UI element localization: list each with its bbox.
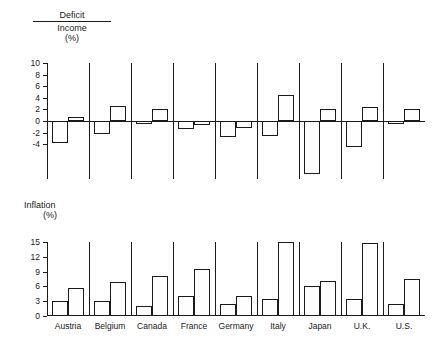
inflation-y-tick (43, 301, 47, 302)
deficit-income-chart: 1086420-2-4 (47, 63, 425, 179)
category-separator (89, 63, 90, 179)
inflation-title-unit: (%) (24, 210, 76, 220)
bar (304, 286, 320, 316)
bar (68, 288, 84, 316)
deficit-y-tick-label: 0 (18, 117, 40, 126)
bar (278, 95, 294, 121)
category-separator (173, 63, 174, 179)
bar (94, 301, 110, 316)
inflation-y-tick (43, 257, 47, 258)
category-separator (89, 242, 90, 316)
deficit-y-tick-label: 8 (18, 71, 40, 80)
inflation-chart-title: Inflation (%) (24, 200, 94, 220)
inflation-y-tick (43, 272, 47, 273)
category-separator (215, 63, 216, 179)
bar (94, 121, 110, 134)
inflation-y-tick (43, 286, 47, 287)
bar (278, 242, 294, 316)
deficit-y-tick (43, 75, 47, 76)
deficit-y-tick-label: -4 (18, 140, 40, 149)
x-axis-label: Italy (257, 322, 299, 331)
deficit-y-tick-label: 4 (18, 94, 40, 103)
bar (304, 121, 320, 174)
inflation-y-axis (47, 242, 48, 316)
x-axis-label: Austria (47, 322, 89, 331)
bar (136, 306, 152, 316)
bar (320, 109, 336, 121)
inflation-y-tick-label: 0 (18, 312, 40, 321)
deficit-title-unit: (%) (33, 33, 111, 43)
bar (110, 282, 126, 316)
inflation-y-tick (43, 316, 47, 317)
deficit-y-tick (43, 63, 47, 64)
inflation-y-tick-label: 9 (18, 268, 40, 277)
x-axis-label: Canada (131, 322, 173, 331)
deficit-y-tick (43, 109, 47, 110)
x-axis-label: U.S. (383, 322, 425, 331)
bar (404, 279, 420, 316)
bar (346, 121, 362, 147)
bar (220, 121, 236, 137)
category-separator (341, 242, 342, 316)
x-axis-label: France (173, 322, 215, 331)
deficit-title-numerator: Deficit (33, 10, 111, 21)
x-axis-label: Germany (215, 322, 257, 331)
bar (136, 121, 152, 124)
category-separator (341, 63, 342, 179)
category-separator (299, 242, 300, 316)
bar (194, 269, 210, 316)
deficit-chart-title: Deficit Income (%) (33, 10, 111, 43)
deficit-y-tick (43, 144, 47, 145)
x-axis-label: Belgium (89, 322, 131, 331)
inflation-title-label: Inflation (24, 200, 56, 210)
deficit-y-tick-label: -2 (18, 129, 40, 138)
category-separator (131, 242, 132, 316)
bar (220, 304, 236, 316)
deficit-y-tick (43, 133, 47, 134)
deficit-title-denominator: Income (33, 23, 111, 33)
bar (52, 121, 68, 143)
deficit-y-tick (43, 98, 47, 99)
category-separator (131, 63, 132, 179)
bar (362, 107, 378, 122)
category-separator (257, 242, 258, 316)
category-separator (383, 242, 384, 316)
inflation-chart: 15129630AustriaBelgiumCanadaFranceGerman… (47, 242, 425, 316)
bar (262, 121, 278, 136)
bar (262, 299, 278, 316)
bar (152, 276, 168, 316)
bar (362, 243, 378, 316)
bar (194, 121, 210, 125)
bar (346, 299, 362, 316)
inflation-y-tick-label: 3 (18, 297, 40, 306)
inflation-y-tick-label: 6 (18, 282, 40, 291)
bar (236, 296, 252, 316)
bar (388, 304, 404, 316)
bar (52, 301, 68, 316)
deficit-y-tick (43, 86, 47, 87)
chart-figure: Deficit Income (%) 1086420-2-4 Inflation… (0, 0, 433, 343)
bar (68, 117, 84, 121)
bar (178, 296, 194, 316)
bar (320, 281, 336, 316)
deficit-y-tick (43, 121, 47, 122)
category-separator (299, 63, 300, 179)
inflation-y-tick-label: 12 (18, 253, 40, 262)
category-separator (215, 242, 216, 316)
bar (152, 109, 168, 121)
x-axis-label: U.K. (341, 322, 383, 331)
deficit-y-tick-label: 2 (18, 105, 40, 114)
deficit-y-tick-label: 6 (18, 82, 40, 91)
x-axis-label: Japan (299, 322, 341, 331)
category-separator (173, 242, 174, 316)
bar (236, 121, 252, 128)
deficit-title-divider (33, 21, 111, 22)
inflation-y-tick-label: 15 (18, 238, 40, 247)
category-separator (383, 63, 384, 179)
bar (178, 121, 194, 129)
category-separator (257, 63, 258, 179)
bar (404, 109, 420, 121)
inflation-y-tick (43, 242, 47, 243)
deficit-y-tick-label: 10 (18, 59, 40, 68)
bar (110, 106, 126, 121)
